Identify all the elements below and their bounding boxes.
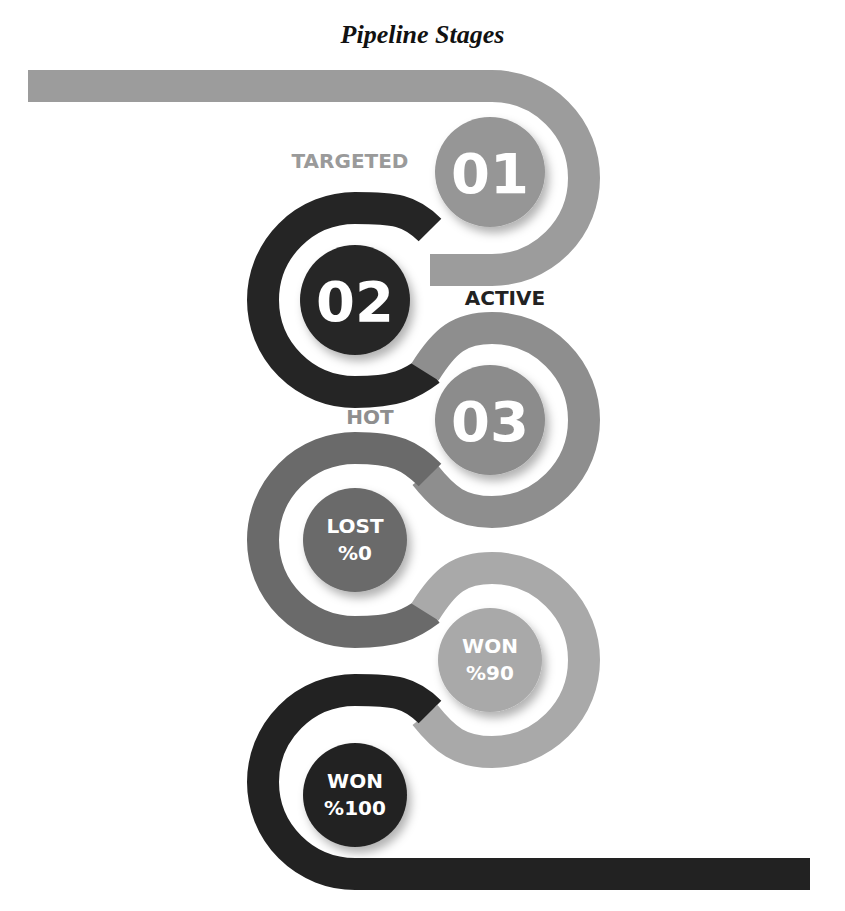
svg-text:HOT: HOT [346,405,394,429]
svg-text:LOST: LOST [326,514,383,538]
svg-text:ACTIVE: ACTIVE [465,286,545,310]
stage-won-90: WON %90 [438,608,542,712]
svg-text:%90: %90 [466,661,514,685]
svg-text:%0: %0 [338,541,372,565]
svg-text:TARGETED: TARGETED [292,149,409,173]
pipeline-diagram: 01 TARGETED 02 ACTIVE 03 HOT LOST %0 WON… [0,0,845,911]
svg-text:02: 02 [316,269,394,334]
stage-won-100: WON %100 [303,743,407,847]
svg-text:WON: WON [327,769,383,793]
svg-text:WON: WON [462,634,518,658]
svg-text:01: 01 [451,141,529,206]
svg-text:%100: %100 [324,796,386,820]
stage-lost: LOST %0 [303,488,407,592]
svg-text:03: 03 [451,389,529,454]
